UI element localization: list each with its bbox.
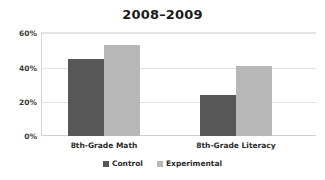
legend-label-control: Control <box>112 159 143 168</box>
x-axis-label-literacy: 8th-Grade Literacy <box>196 141 275 150</box>
legend-swatch-control-icon <box>103 161 109 167</box>
bar-literacy-control[interactable] <box>200 95 236 136</box>
chart-legend: Control Experimental <box>0 159 325 168</box>
y-axis-tick-40: 40% <box>19 63 37 72</box>
legend-item-control[interactable]: Control <box>103 159 143 168</box>
bar-math-experimental[interactable] <box>104 45 140 136</box>
bar-math-control[interactable] <box>68 59 104 136</box>
legend-label-experimental: Experimental <box>166 159 222 168</box>
y-axis-tick-0: 0% <box>24 132 37 141</box>
bar-chart-figure: 2008–2009 60% 40% 20% 0% 8th-Grade Math … <box>0 0 325 180</box>
y-axis-tick-60: 60% <box>19 29 37 38</box>
y-axis-tick-20: 20% <box>19 98 37 107</box>
x-axis-label-math: 8th-Grade Math <box>71 141 138 150</box>
plot-area: 60% 40% 20% 0% <box>41 32 316 136</box>
legend-swatch-experimental-icon <box>157 161 163 167</box>
gridline-60 <box>42 33 316 34</box>
bar-literacy-experimental[interactable] <box>236 66 272 136</box>
legend-item-experimental[interactable]: Experimental <box>157 159 222 168</box>
chart-title: 2008–2009 <box>0 7 325 22</box>
